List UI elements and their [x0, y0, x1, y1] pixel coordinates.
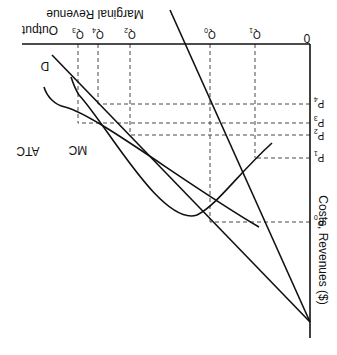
marginal-revenue-curve — [170, 10, 310, 322]
monopoly-diagram: 0 Output Costs, Revenues ($) Marginal Re… — [0, 0, 337, 355]
p4-tick-label: P4 — [314, 96, 325, 109]
average-total-cost-label: ATC — [16, 144, 39, 158]
p2-tick-label: P2 — [314, 128, 325, 141]
q2-tick-label: Q2 — [124, 27, 136, 40]
p1-tick-label: P1 — [314, 150, 325, 163]
q3-tick-label: Q3 — [72, 27, 84, 40]
q0-tick-label: Q0 — [204, 27, 216, 40]
marginal-revenue-label: Marginal Revenue — [46, 7, 144, 21]
p3-tick-label: P3 — [314, 115, 325, 128]
demand-curve — [52, 55, 310, 322]
q4-tick-label: Q4 — [92, 27, 104, 40]
marginal-cost-label: MC — [68, 143, 87, 157]
demand-label: D — [40, 59, 49, 73]
x-axis-label: Output — [21, 23, 58, 37]
y-axis-label: Costs, Revenues ($) — [316, 195, 330, 304]
q1-tick-label: Q1 — [249, 27, 261, 40]
origin-label: 0 — [303, 31, 310, 45]
diagram-rotated-group — [22, 10, 310, 338]
marginal-cost-curve — [71, 77, 272, 216]
